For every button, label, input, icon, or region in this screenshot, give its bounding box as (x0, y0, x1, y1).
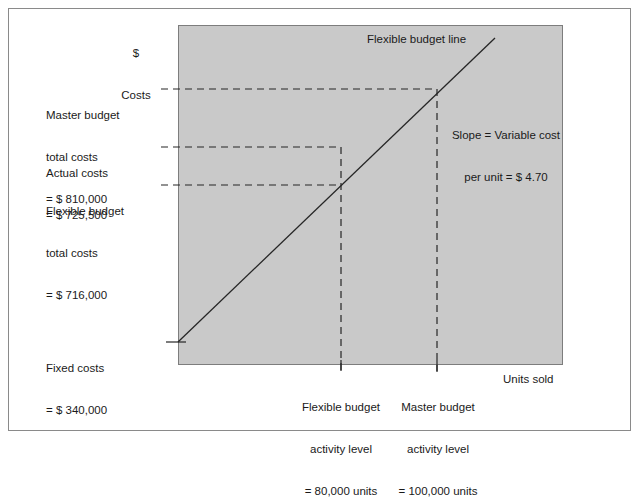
master-budget-costs-line1: Master budget (46, 108, 174, 122)
flexible-budget-line-label: Flexible budget line (367, 32, 466, 46)
slope-line1: Slope = Variable cost (444, 128, 568, 142)
flexible-budget-costs-line2: total costs (46, 246, 174, 260)
master-activity-value: = 100,000 units (381, 484, 495, 498)
master-activity-level-label: Master budget activity level = 100,000 u… (381, 372, 495, 501)
flexible-budget-costs-line1: Flexible budget (46, 204, 174, 218)
slope-annotation: Slope = Variable cost per unit = $ 4.70 (444, 100, 568, 212)
master-activity-line1: Master budget (381, 400, 495, 414)
flexible-budget-costs-value: = $ 716,000 (46, 288, 174, 302)
fixed-costs-line1: Fixed costs (46, 361, 174, 375)
y-axis-caption-currency: $ (96, 46, 176, 60)
master-activity-line2: activity level (381, 442, 495, 456)
flexible-budget-costs-label: Flexible budget total costs = $ 716,000 (46, 176, 174, 330)
fixed-costs-label: Fixed costs = $ 340,000 (46, 333, 174, 445)
slope-line2: per unit = $ 4.70 (444, 170, 568, 184)
fixed-costs-value: = $ 340,000 (46, 403, 174, 417)
x-axis-caption: Units sold (503, 372, 593, 386)
